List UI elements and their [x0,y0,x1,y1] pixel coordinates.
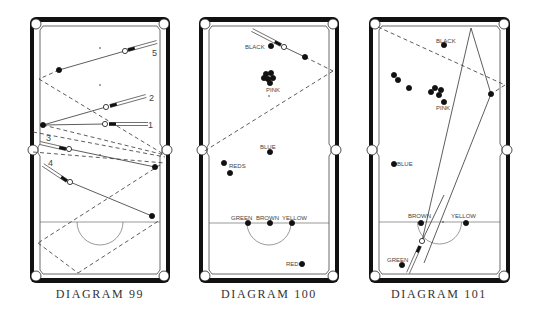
cue-tip [128,48,135,50]
diagram-label: BLUE [397,161,413,167]
table-d99: 52134 [28,17,172,283]
ball-black [268,43,273,48]
ball [428,89,433,94]
pocket-icon [370,271,380,281]
diagram-100-caption: DIAGRAM 100 [194,287,344,302]
ball-blue [391,161,396,166]
ball [56,67,61,72]
pocket-icon [367,145,377,155]
ball-green [245,220,250,225]
pocket-icon [31,19,41,29]
snooker-diagrams: 52134BLACKPINKBLUEREDSGREENBROWNYELLOWRE… [0,0,536,322]
ball [302,54,307,59]
diagram-label: RED [286,261,299,267]
diagram-label: GREEN [387,257,408,263]
pocket-icon [331,145,341,155]
diagram-label: YELLOW [282,215,307,221]
ball-blue [267,149,272,154]
cue-ball [419,238,424,243]
diagram-label: GREEN [231,215,252,221]
ball-yellow [289,220,294,225]
ball [149,213,154,218]
pocket-icon [31,271,41,281]
playing-surface [377,26,502,274]
diagram-label: BLUE [260,144,276,150]
ball [436,92,441,97]
ball [438,87,443,92]
pocket-icon [328,19,338,29]
pocket-icon [200,19,210,29]
table-d100: BLACKPINKBLUEREDSGREENBROWNYELLOWRED [197,17,341,283]
cue-ball [102,121,107,126]
ball [270,75,275,80]
ball-green [399,262,404,267]
ball-brown [267,220,272,225]
diagram-label: 3 [46,133,51,143]
diagram-label: BROWN [408,213,431,219]
spot-marker [442,221,444,223]
cue-tip [110,104,117,106]
ball [268,70,273,75]
ball [395,77,400,82]
diagram-label: PINK [436,105,450,111]
cue-ball [122,48,127,53]
diagram-101-caption: DIAGRAM 101 [364,287,514,302]
spot-marker [99,84,101,86]
diagram-label: BLACK [436,38,456,44]
ball [152,164,157,169]
playing-surface [38,26,162,274]
ball-pink [441,99,446,104]
diagram-label: 5 [152,48,157,58]
diagram-99-caption: DIAGRAM 99 [25,287,175,302]
ball-reds [227,170,232,175]
ball-red [299,261,304,266]
cue-tip [59,147,66,149]
ball [488,91,493,96]
ball [432,85,437,90]
pocket-icon [328,271,338,281]
diagram-label: REDS [229,163,246,169]
spot-marker [268,95,270,97]
pocket-icon [162,145,172,155]
ball-pink [267,80,272,85]
cue-ball [281,44,286,49]
diagram-label: PINK [266,87,280,93]
pocket-icon [499,19,509,29]
diagram-label: 1 [148,120,153,130]
ball [391,72,396,77]
diagram-label: BLACK [245,44,265,50]
ball-yellow [463,220,468,225]
table-d101: BLACKPINKBLUEBROWNYELLOWGREEN [367,17,512,283]
cue-ball [66,146,71,151]
pocket-icon [28,145,38,155]
ball [406,85,411,90]
spot-marker [99,47,101,49]
diagram-label: 4 [48,158,53,168]
pocket-icon [159,19,169,29]
ball [221,160,226,165]
ball-brown [418,220,423,225]
cue-ball [103,104,108,109]
ball [40,122,45,127]
pocket-icon [502,145,512,155]
diagram-label: YELLOW [451,213,476,219]
pocket-icon [499,271,509,281]
cue-ball [67,179,72,184]
diagram-label: 2 [149,93,154,103]
diagram-label: BROWN [256,215,279,221]
pocket-icon [200,271,210,281]
pocket-icon [159,271,169,281]
